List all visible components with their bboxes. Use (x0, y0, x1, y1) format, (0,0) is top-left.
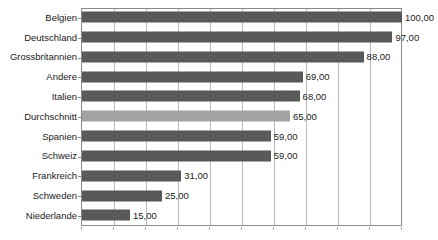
bar (82, 170, 181, 181)
category-label: Durchschnitt (0, 111, 77, 122)
value-label: 65,00 (293, 111, 317, 122)
bar-rows: Belgien100,00Deutschland97,00Grossbritan… (0, 8, 438, 226)
value-label: 31,00 (184, 170, 208, 181)
bar (82, 111, 290, 122)
bar (82, 150, 271, 161)
category-label: Schweiz (0, 150, 77, 161)
value-label: 25,00 (165, 190, 189, 201)
bar (82, 71, 303, 82)
category-label: Schweden (0, 190, 77, 201)
bar-track: 88,00 (82, 51, 402, 62)
value-label: 97,00 (395, 32, 419, 43)
bottom-axis-tick (81, 227, 82, 230)
bar-chart: Belgien100,00Deutschland97,00Grossbritan… (0, 0, 438, 240)
bar-row: Schweden25,00 (0, 186, 438, 204)
bottom-axis-tick (401, 227, 402, 230)
bar (82, 32, 392, 43)
bar-track: 25,00 (82, 190, 402, 201)
bottom-axis-tick (145, 227, 146, 230)
bar-row: Schweiz59,00 (0, 147, 438, 165)
bar-track: 59,00 (82, 131, 402, 142)
category-label: Grossbritannien (0, 51, 77, 62)
bottom-axis-tick (113, 227, 114, 230)
bar-track: 97,00 (82, 32, 402, 43)
bar-row: Spanien59,00 (0, 127, 438, 145)
bottom-axis-tick (241, 227, 242, 230)
bar-row: Deutschland97,00 (0, 28, 438, 46)
bar-row: Andere69,00 (0, 67, 438, 85)
bar-track: 15,00 (82, 210, 402, 221)
value-label: 100,00 (405, 12, 434, 23)
bar-track: 69,00 (82, 71, 402, 82)
value-label: 88,00 (367, 51, 391, 62)
category-label: Andere (0, 71, 77, 82)
category-label: Deutschland (0, 32, 77, 43)
bar-row: Grossbritannien88,00 (0, 48, 438, 66)
bar-row: Italien68,00 (0, 87, 438, 105)
bar-track: 100,00 (82, 12, 402, 23)
bar (82, 210, 130, 221)
bar-track: 31,00 (82, 170, 402, 181)
bar-row: Frankreich31,00 (0, 167, 438, 185)
bottom-axis-tick (209, 227, 210, 230)
bottom-axis-tick (273, 227, 274, 230)
bar (82, 190, 162, 201)
bottom-axis-tick (177, 227, 178, 230)
value-label: 59,00 (274, 150, 298, 161)
value-label: 15,00 (133, 210, 157, 221)
bar-row: Durchschnitt65,00 (0, 107, 438, 125)
bar-track: 59,00 (82, 150, 402, 161)
category-label: Italien (0, 91, 77, 102)
bar-row: Belgien100,00 (0, 8, 438, 26)
value-label: 59,00 (274, 131, 298, 142)
value-label: 68,00 (303, 91, 327, 102)
bottom-axis-tick (337, 227, 338, 230)
bar-row: Niederlande15,00 (0, 206, 438, 224)
bar-track: 65,00 (82, 111, 402, 122)
bar (82, 131, 271, 142)
bar (82, 51, 364, 62)
value-label: 69,00 (306, 71, 330, 82)
bar (82, 12, 402, 23)
bottom-axis-tick (305, 227, 306, 230)
category-label: Spanien (0, 131, 77, 142)
bottom-axis-tick (369, 227, 370, 230)
bar-track: 68,00 (82, 91, 402, 102)
category-label: Frankreich (0, 170, 77, 181)
bar (82, 91, 300, 102)
category-label: Niederlande (0, 210, 77, 221)
category-label: Belgien (0, 12, 77, 23)
